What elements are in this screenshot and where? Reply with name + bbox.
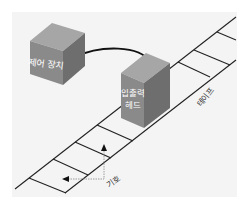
arrow-left-icon (62, 176, 69, 182)
tape-cell-divider (194, 50, 230, 65)
control-unit-cube: 제어 장치 (28, 23, 85, 85)
symbol-label: 기호 (105, 174, 122, 189)
tape-cell-divider (217, 32, 236, 40)
tape-cell-divider (53, 159, 88, 175)
tape-cell-divider (97, 125, 133, 141)
tape-cell-divider (29, 178, 66, 193)
io-head-label-line1: 입출력 (121, 88, 145, 98)
diagram-svg: 제어 장치 입출력 헤드 테이프 기호 (0, 0, 250, 209)
io-head-label-line2: 헤드 (125, 100, 141, 110)
turing-machine-diagram: 제어 장치 입출력 헤드 테이프 기호 (0, 0, 250, 209)
arrow-up-icon (101, 144, 107, 151)
tape-label: 테이프 (195, 86, 216, 109)
tape-cell-divider (178, 62, 210, 77)
